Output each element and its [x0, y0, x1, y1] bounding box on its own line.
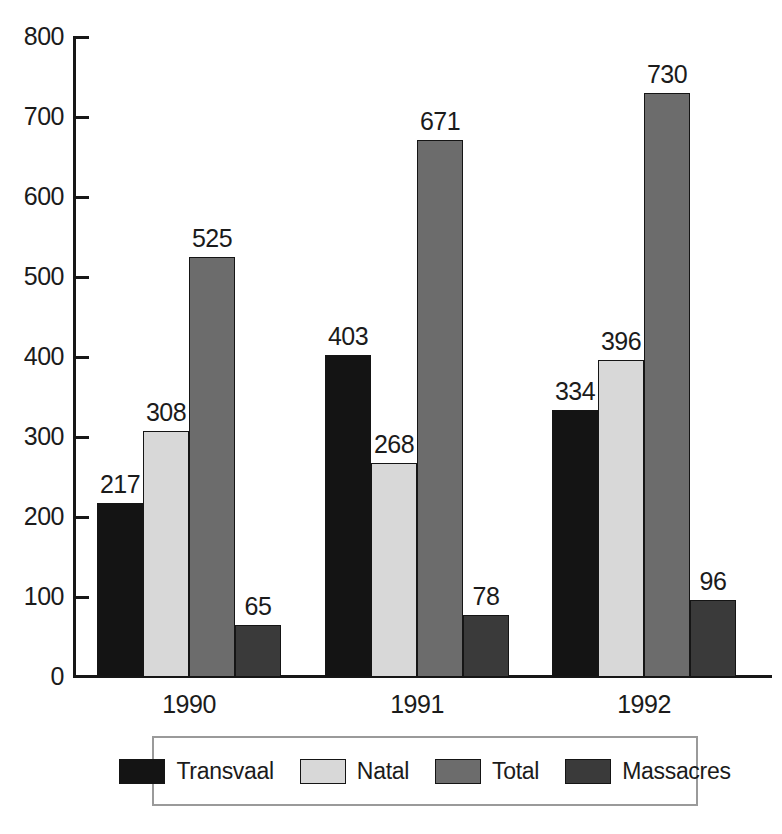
legend-swatch-total-icon — [435, 759, 481, 784]
legend-swatch-transvaal-icon — [119, 759, 165, 784]
legend-item-total[interactable]: Total — [435, 759, 565, 784]
bar-transvaal-1992 — [552, 410, 598, 677]
bar-massacres-1992 — [690, 600, 736, 677]
bar-value-label: 65 — [223, 594, 293, 619]
bar-value-label: 730 — [632, 62, 702, 87]
x-axis-label-1992: 1992 — [574, 690, 714, 718]
y-axis-tick-label: 700 — [6, 104, 64, 129]
bar-value-label: 671 — [405, 109, 475, 134]
bar-transvaal-1991 — [325, 355, 371, 677]
y-axis-tick-label: 400 — [6, 344, 64, 369]
legend-item-massacres[interactable]: Massacres — [565, 759, 731, 784]
bar-natal-1990 — [143, 431, 189, 677]
plot-area: 217308525654032686717833439673096 — [76, 37, 772, 677]
x-axis-label-1991: 1991 — [347, 690, 487, 718]
bar-value-label: 525 — [177, 226, 247, 251]
bar-value-label: 78 — [451, 584, 521, 609]
bar-transvaal-1990 — [97, 503, 143, 677]
y-axis-tick-label: 200 — [6, 504, 64, 529]
y-axis-tick-label: 300 — [6, 424, 64, 449]
legend-item-natal[interactable]: Natal — [300, 759, 435, 784]
bar-natal-1991 — [371, 463, 417, 677]
y-axis-tick-label: 100 — [6, 584, 64, 609]
bar-value-label: 403 — [313, 324, 383, 349]
legend-label: Natal — [357, 760, 409, 783]
y-axis-tick-label: 0 — [6, 664, 64, 689]
bar-massacres-1990 — [235, 625, 281, 677]
chart-legend: TransvaalNatalTotalMassacres — [152, 736, 698, 806]
y-axis-tick-label: 500 — [6, 264, 64, 289]
legend-label: Transvaal — [176, 760, 273, 783]
legend-label: Total — [492, 760, 539, 783]
legend-swatch-natal-icon — [300, 759, 346, 784]
y-axis-tick-label: 800 — [6, 24, 64, 49]
bar-value-label: 96 — [678, 569, 748, 594]
x-axis-label-1990: 1990 — [119, 690, 259, 718]
legend-swatch-massacres-icon — [565, 759, 611, 784]
legend-label: Massacres — [622, 760, 731, 783]
bar-chart: 0100200300400500600700800 21730852565403… — [0, 0, 782, 834]
y-axis-tick-label: 600 — [6, 184, 64, 209]
legend-item-transvaal[interactable]: Transvaal — [119, 759, 299, 784]
bar-massacres-1991 — [463, 615, 509, 677]
bar-natal-1992 — [598, 360, 644, 677]
